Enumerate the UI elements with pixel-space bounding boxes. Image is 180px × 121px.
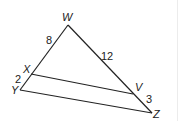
triangle-diagram: W X Y V Z 8 12 2 3 [0, 0, 180, 121]
vertex-label-v: V [135, 81, 144, 93]
length-label-wv: 12 [101, 50, 113, 62]
vertex-label-w: W [62, 11, 74, 23]
length-label-vz: 3 [146, 93, 152, 105]
vertex-label-y: Y [11, 84, 19, 96]
vertex-label-x: X [22, 63, 31, 75]
edge-wz [68, 25, 152, 113]
vertex-label-z: Z [152, 108, 161, 120]
length-label-xy: 2 [15, 73, 21, 85]
length-label-wx: 8 [46, 34, 52, 46]
